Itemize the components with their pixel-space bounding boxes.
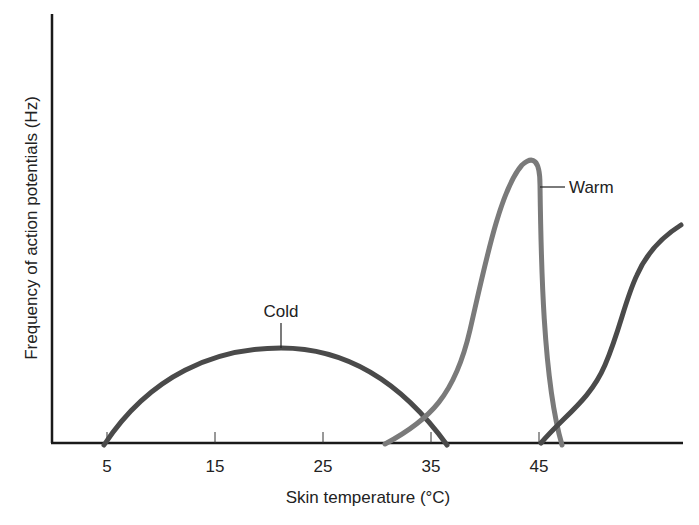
chart-canvas: 5 15 25 35 45 Skin temperature (°C) Freq…	[0, 0, 699, 525]
series-cold	[104, 348, 447, 445]
x-tick-labels: 5 15 25 35 45	[102, 457, 548, 476]
x-axis-title: Skin temperature (°C)	[286, 488, 451, 507]
y-axis-title: Frequency of action potentials (Hz)	[22, 96, 41, 360]
x-tick-label: 45	[530, 457, 549, 476]
x-tick-label: 5	[102, 457, 111, 476]
cold-label: Cold	[264, 302, 299, 321]
x-tick-label: 25	[314, 457, 333, 476]
x-tick-label: 35	[422, 457, 441, 476]
x-ticks	[107, 432, 539, 443]
series-heat	[541, 225, 681, 443]
warm-label: Warm	[569, 178, 614, 197]
x-tick-label: 15	[206, 457, 225, 476]
